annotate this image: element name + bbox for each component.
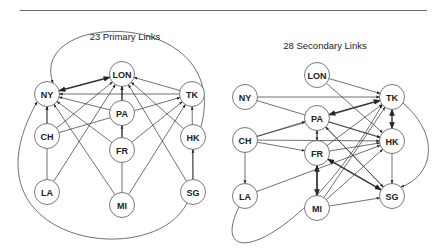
edge-pa-ny — [59, 97, 110, 110]
node-label: LON — [308, 71, 327, 81]
node-pa: PA — [110, 101, 135, 126]
edge-ny-lon — [59, 77, 110, 91]
primary-links-graph: NYLONTKPACHFRHKLAMISG — [18, 31, 206, 239]
edge-lon-tk — [329, 79, 380, 94]
node-label: PA — [116, 109, 128, 119]
node-label: PA — [311, 114, 323, 124]
node-label: SG — [186, 188, 199, 198]
node-label: CH — [41, 132, 54, 142]
edge-tk-lon — [134, 77, 180, 90]
node-ny: NY — [233, 85, 258, 110]
edge-sg-lon — [128, 85, 186, 182]
node-la: LA — [35, 180, 60, 205]
node-label: FR — [311, 149, 323, 159]
node-ch: CH — [233, 128, 258, 153]
edge-ch-fr — [257, 142, 304, 151]
node-la: LA — [233, 184, 258, 209]
node-label: FR — [116, 146, 128, 156]
node-label: HK — [386, 137, 399, 147]
node-tk: TK — [180, 82, 205, 107]
edge-mi-sg — [329, 198, 379, 206]
node-label: TK — [186, 90, 198, 100]
node-mi: MI — [110, 193, 135, 218]
node-hk: HK — [380, 129, 405, 154]
edge-la-lon — [54, 85, 116, 182]
node-lon: LON — [110, 62, 135, 87]
edge-fr-hk — [329, 143, 379, 151]
node-label: LA — [239, 192, 251, 202]
node-hk: HK — [181, 125, 206, 150]
secondary-links-graph: LONNYTKPACHFRHKLAMISG — [232, 63, 428, 243]
node-label: SG — [385, 192, 398, 202]
node-label: TK — [386, 93, 398, 103]
edge-tk-sg — [401, 103, 428, 187]
node-label: MI — [312, 204, 322, 214]
node-label: LON — [113, 70, 132, 80]
edge-mi-tk — [129, 105, 186, 195]
node-label: NY — [41, 90, 54, 100]
node-sg: SG — [380, 184, 405, 209]
node-pa: PA — [305, 106, 330, 131]
node-lon: LON — [305, 63, 330, 88]
node-mi: MI — [305, 196, 330, 221]
node-label: MI — [117, 201, 127, 211]
node-ch: CH — [35, 124, 60, 149]
node-label: CH — [239, 136, 252, 146]
edge-mi-ny — [54, 104, 115, 194]
node-fr: FR — [305, 141, 330, 166]
node-sg: SG — [181, 180, 206, 205]
edge-mi-tk — [324, 107, 385, 197]
node-label: HK — [187, 133, 200, 143]
edge-fr-ny — [57, 101, 112, 142]
network-diagrams: NYLONTKPACHFRHKLAMISG LONNYTKPACHFRHKLAM… — [0, 0, 444, 248]
edge-sg-ny — [18, 102, 187, 239]
node-label: LA — [41, 188, 53, 198]
node-label: NY — [239, 93, 252, 103]
node-tk: TK — [380, 85, 405, 110]
node-ny: NY — [35, 82, 60, 107]
node-fr: FR — [110, 138, 135, 163]
